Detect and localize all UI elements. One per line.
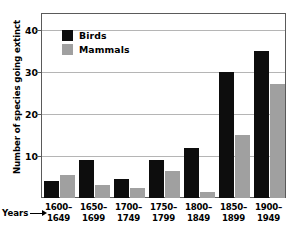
x-tick-label: 1800–1849 xyxy=(181,202,217,224)
bar-birds-1750–1799 xyxy=(149,160,164,198)
bar-mammals-1700–1749 xyxy=(130,188,145,199)
x-axis-caption: Years xyxy=(2,208,47,218)
bar-group xyxy=(251,13,286,198)
bar-mammals-1850–1899 xyxy=(235,135,250,198)
legend-item-mammals: Mammals xyxy=(62,42,130,56)
bar-birds-1700–1749 xyxy=(114,179,129,198)
bar-birds-1850–1899 xyxy=(219,72,234,198)
y-tick-label: 10 xyxy=(16,150,38,161)
x-tick-label: 1650–1699 xyxy=(76,202,112,224)
bar-mammals-1750–1799 xyxy=(165,171,180,198)
bar-birds-1600–1649 xyxy=(44,181,59,198)
legend-swatch-birds-icon xyxy=(62,30,73,41)
x-axis-caption-label: Years xyxy=(2,208,28,218)
bar-mammals-1800–1849 xyxy=(200,192,215,198)
x-tick-label: 1700–1749 xyxy=(111,202,147,224)
right-arrow-icon xyxy=(30,210,47,217)
legend-swatch-mammals-icon xyxy=(62,44,73,55)
chart-legend: Birds Mammals xyxy=(62,28,130,56)
y-tick-label: 30 xyxy=(16,66,38,77)
bar-mammals-1600–1649 xyxy=(60,175,75,198)
y-tick-label: 40 xyxy=(16,24,38,35)
bar-group xyxy=(181,13,216,198)
bar-group xyxy=(146,13,181,198)
bar-mammals-1900–1949 xyxy=(270,84,285,198)
bar-birds-1800–1849 xyxy=(184,148,199,198)
x-tick-label: 1750–1799 xyxy=(146,202,182,224)
bar-birds-1650–1699 xyxy=(79,160,94,198)
bar-chart: Number of species going extinct 10203040… xyxy=(0,0,292,236)
x-tick-label: 1900–1949 xyxy=(251,202,287,224)
legend-label-mammals: Mammals xyxy=(79,44,130,55)
x-axis-labels: 1600–16491650–16991700–17491750–17991800… xyxy=(41,202,286,232)
y-tick-label: 20 xyxy=(16,108,38,119)
x-tick-label: 1850–1899 xyxy=(216,202,252,224)
bar-group xyxy=(216,13,251,198)
bar-mammals-1650–1699 xyxy=(95,185,110,198)
bar-birds-1900–1949 xyxy=(254,51,269,198)
legend-label-birds: Birds xyxy=(79,30,107,41)
legend-item-birds: Birds xyxy=(62,28,130,42)
